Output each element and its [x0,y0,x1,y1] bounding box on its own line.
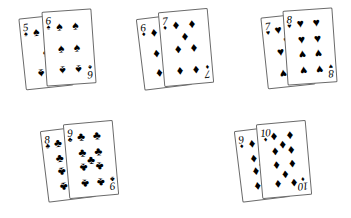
club-suit-pip: ♣ [79,162,88,175]
diamond-suit-pip: ♦ [279,137,287,151]
diamond-suit-pip: ♦ [290,176,298,190]
diamond-suit-pip: ♦ [248,136,256,150]
diamond-suit-pip: ♦ [190,40,198,54]
playing-card-9-club[interactable]: 9♣9♣♣♣♣♣♣♣♣♣♣ [63,120,119,199]
club-suit-pip: ♣ [95,160,104,173]
playing-card-10-diamond[interactable]: 10♦10♦♦♦♦♦♦♦♦♦♦♦ [256,120,312,199]
club-suit-pip: ♣ [57,166,66,179]
card-corner-index-br: 9♣ [109,175,115,192]
spade-suit-icon: ♠ [46,24,50,31]
heart-suit-pip: ♥ [313,32,321,44]
diamond-suit-pip: ♦ [289,158,297,172]
heart-suit-pip: ♥ [300,64,308,76]
spade-suit-pip: ♠ [75,63,82,75]
card-corner-index-br: 8♥ [328,62,334,79]
club-suit-pip: ♣ [81,177,90,190]
heart-suit-pip: ♥ [298,33,306,45]
spade-suit-pip: ♠ [37,67,45,80]
club-suit-pip: ♣ [97,175,106,188]
spade-suit-icon: ♠ [87,63,91,70]
playing-card-8-heart[interactable]: 8♥8♥♥♥♥♥♥♥♥♥ [282,7,337,85]
card-corner-index-br: 7♦ [204,63,210,80]
card-pip-field: ♦♦♦♦♦♦♦ [168,19,205,77]
club-suit-icon: ♣ [109,175,114,182]
heart-suit-pip: ♥ [315,47,323,59]
heart-suit-icon: ♥ [266,30,271,37]
card-pip-field: ♥♥♥♥♥♥♥♥ [292,18,328,75]
club-suit-pip: ♣ [59,180,68,193]
diamond-suit-icon: ♦ [205,63,209,70]
heart-suit-pip: ♥ [274,24,282,37]
diamond-suit-pip: ♦ [152,46,160,60]
diamond-suit-pip: ♦ [251,165,259,179]
heart-suit-pip: ♥ [316,63,324,75]
spade-suit-pip: ♠ [59,64,66,76]
playing-card-6-spade[interactable]: 6♠6♠♠♠♠♠♠♠ [41,8,96,86]
card-pip-field: ♠♠♠♠♠♠ [51,19,87,76]
spade-suit-pip: ♠ [72,19,79,31]
diamond-suit-pip: ♦ [181,29,189,43]
heart-suit-pip: ♥ [299,48,307,60]
heart-suit-icon: ♥ [328,62,333,69]
heart-suit-pip: ♥ [276,45,284,58]
card-pip-field: ♣♣♣♣♣♣♣♣♣ [73,131,110,189]
card-rank-label: 8 [328,69,334,79]
spade-suit-pip: ♠ [33,26,41,39]
heart-suit-icon: ♥ [287,23,292,30]
diamond-suit-icon: ♦ [240,143,244,150]
spade-suit-pip: ♠ [56,20,63,32]
heart-suit-pip: ♥ [296,18,304,30]
club-suit-pip: ♣ [55,151,64,164]
diamond-suit-pip: ♦ [174,41,182,55]
diamond-suit-pip: ♦ [250,151,258,165]
club-suit-pip: ♣ [93,129,102,142]
diamond-suit-pip: ♦ [271,144,279,158]
diamond-suit-pip: ♦ [192,63,200,77]
diamond-suit-pip: ♦ [286,128,294,142]
card-corner-index-br: 6♠ [87,63,93,80]
club-suit-pip: ♣ [94,145,103,158]
spade-suit-pip: ♠ [73,41,80,53]
diamond-suit-icon: ♦ [142,31,146,38]
playing-card-7-diamond[interactable]: 7♦7♦♦♦♦♦♦♦♦ [158,8,214,87]
diamond-suit-pip: ♦ [273,159,281,173]
diamond-suit-pip: ♦ [281,168,289,182]
diamond-suit-pip: ♦ [188,17,196,31]
card-pip-field: ♦♦♦♦♦♦♦♦♦♦ [266,131,303,189]
diamond-suit-pip: ♦ [274,178,282,192]
diamond-suit-pip: ♦ [270,129,278,143]
spade-suit-pip: ♠ [57,42,64,54]
diamond-suit-pip: ♦ [172,18,180,32]
card-rank-label: 6 [87,70,93,80]
club-suit-pip: ♣ [53,137,62,150]
diamond-suit-icon: ♦ [163,25,167,32]
heart-suit-pip: ♥ [312,17,320,29]
diamond-suit-pip: ♦ [150,25,158,39]
playing-cards-scene: 5♠5♠♠♠♠♠♠6♠6♠♠♠♠♠♠♠6♦6♦♦♦♦♦♦♦7♦7♦♦♦♦♦♦♦♦… [0,0,351,218]
diamond-suit-pip: ♦ [287,143,295,157]
spade-suit-icon: ♠ [24,31,28,38]
club-suit-pip: ♣ [77,131,86,144]
diamond-suit-pip: ♦ [176,64,184,78]
